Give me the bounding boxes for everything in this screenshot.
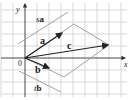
y-axis-label: y — [16, 6, 20, 14]
x-axis-label: x — [124, 61, 128, 69]
sa-vector: a — [40, 14, 45, 24]
vector-c-label: c — [67, 41, 71, 51]
tb-label: tb — [34, 84, 42, 93]
grid — [1, 3, 127, 97]
tb-vector: b — [37, 83, 42, 93]
vector-a-label: a — [40, 36, 45, 46]
vector-b-label: b — [35, 65, 41, 75]
sa-label: sa — [36, 15, 44, 24]
origin-label: 0 — [18, 60, 22, 68]
